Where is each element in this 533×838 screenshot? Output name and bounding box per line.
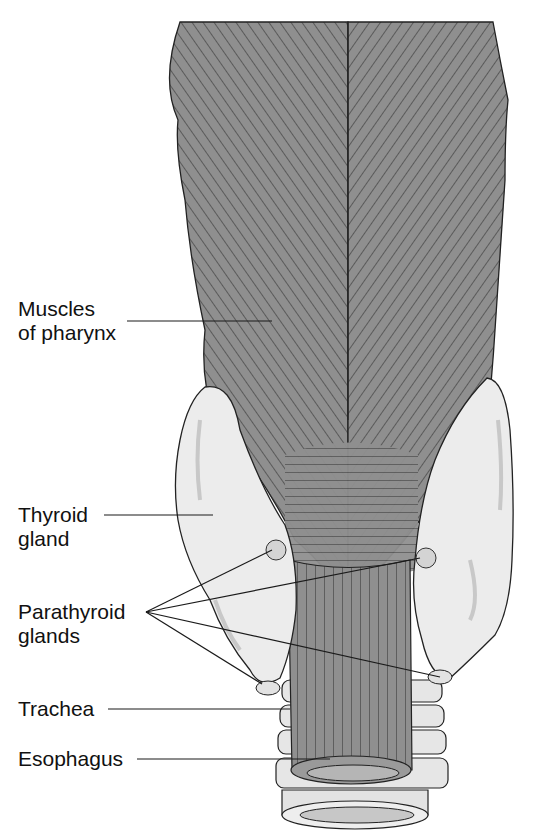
- label-line: Esophagus: [18, 747, 123, 771]
- label-line: Trachea: [18, 697, 94, 721]
- label-line: gland: [18, 527, 88, 551]
- label-thyroid-gland: Thyroid gland: [18, 503, 88, 551]
- label-trachea: Trachea: [18, 697, 94, 721]
- label-esophagus: Esophagus: [18, 747, 123, 771]
- label-parathyroid-glands: Parathyroid glands: [18, 600, 125, 648]
- label-line: Parathyroid: [18, 600, 125, 624]
- label-line: of pharynx: [18, 321, 116, 345]
- label-muscles-of-pharynx: Muscles of pharynx: [18, 297, 116, 345]
- label-line: Muscles: [18, 297, 116, 321]
- label-line: glands: [18, 624, 125, 648]
- label-line: Thyroid: [18, 503, 88, 527]
- anatomy-figure: Muscles of pharynx Thyroid gland Parathy…: [0, 0, 533, 838]
